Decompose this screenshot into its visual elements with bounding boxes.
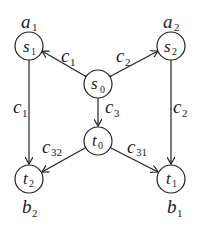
svg-text:c: c <box>13 96 22 117</box>
svg-text:a: a <box>21 11 31 32</box>
svg-text:a: a <box>163 11 173 32</box>
node-sub: 2 <box>172 46 177 57</box>
node-t2: t 2 <box>15 165 43 193</box>
edge-label-c1-diag: c 1 <box>61 45 76 68</box>
node-label: s <box>91 74 98 93</box>
node-sub: 2 <box>29 178 34 189</box>
svg-text:c: c <box>127 136 136 157</box>
node-sub: 0 <box>100 84 105 95</box>
node-label: s <box>164 37 171 56</box>
weight-a1: a 1 <box>21 11 38 33</box>
node-t1: t 1 <box>157 165 185 193</box>
weight-b2: b 2 <box>22 196 38 219</box>
edge-label-c31: c 31 <box>127 136 147 158</box>
edge-label-c3: c 3 <box>105 96 120 119</box>
node-s0: s 0 <box>84 70 112 98</box>
node-sub: 1 <box>172 178 177 189</box>
svg-text:2: 2 <box>125 56 131 68</box>
svg-text:b: b <box>22 196 32 217</box>
svg-text:c: c <box>61 45 70 66</box>
edge-label-c2-vert: c 2 <box>173 96 188 119</box>
node-sub: 1 <box>31 46 36 57</box>
svg-text:3: 3 <box>114 107 120 119</box>
node-s2: s 2 <box>157 32 185 60</box>
node-s1: s 1 <box>15 32 43 60</box>
node-t0: t 0 <box>84 127 112 155</box>
svg-text:32: 32 <box>51 146 62 158</box>
svg-text:31: 31 <box>136 146 147 158</box>
edge-label-c32: c 32 <box>42 136 62 158</box>
diagram-canvas: s 1 s 2 s 0 t 0 t 2 t 1 a 1 a 2 b 2 b 1 <box>0 0 199 229</box>
edge-label-c1-vert: c 1 <box>13 96 28 119</box>
svg-text:2: 2 <box>32 207 38 219</box>
svg-text:1: 1 <box>177 207 183 219</box>
svg-text:c: c <box>173 96 182 117</box>
svg-text:1: 1 <box>22 107 28 119</box>
svg-text:1: 1 <box>32 21 38 33</box>
edge-label-c2-diag: c 2 <box>116 45 131 68</box>
svg-text:2: 2 <box>182 107 188 119</box>
weight-b1: b 1 <box>167 196 183 219</box>
svg-text:b: b <box>167 196 177 217</box>
weight-a2: a 2 <box>163 11 180 33</box>
svg-text:c: c <box>116 45 125 66</box>
svg-text:c: c <box>42 136 51 157</box>
svg-text:1: 1 <box>70 56 76 68</box>
svg-text:c: c <box>105 96 114 117</box>
node-label: s <box>23 37 30 56</box>
svg-text:2: 2 <box>174 21 180 33</box>
network-diagram: s 1 s 2 s 0 t 0 t 2 t 1 a 1 a 2 b 2 b 1 <box>0 0 199 229</box>
node-sub: 0 <box>98 140 103 151</box>
